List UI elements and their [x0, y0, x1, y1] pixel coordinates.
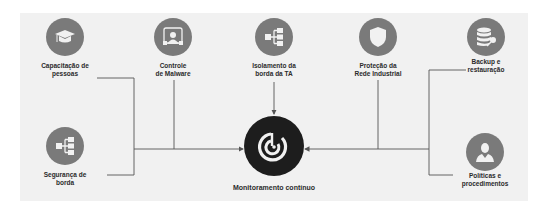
node-seguranca	[46, 127, 84, 165]
node-monitoramento	[244, 116, 304, 176]
label-capacitacao: Capacitação depessoas	[41, 62, 89, 78]
node-capacitacao	[46, 18, 84, 56]
malware-monitor-icon	[160, 24, 186, 50]
label-seguranca: Segurança deborda	[44, 171, 87, 187]
label-isolamento: Isolamento daborda da TA	[252, 62, 296, 78]
graduation-cap-icon	[52, 24, 78, 50]
label-malware: Controlede Malware	[155, 62, 190, 78]
node-backup	[467, 18, 505, 56]
label-monitoramento: Monitoramento contínuo	[233, 184, 315, 192]
node-politicas	[466, 133, 504, 171]
shield-icon	[365, 24, 391, 50]
label-protecao: Proteção daRede Industrial	[355, 62, 402, 78]
label-politicas: Políticas eprocedimentos	[462, 172, 509, 188]
node-isolamento	[255, 18, 293, 56]
database-key-icon	[473, 24, 499, 50]
radar-icon	[254, 126, 294, 166]
person-icon	[472, 139, 498, 165]
label-backup: Backup erestauração	[468, 58, 505, 74]
network-hierarchy-icon	[52, 133, 78, 159]
network-hierarchy-icon	[261, 24, 287, 50]
node-protecao	[359, 18, 397, 56]
node-malware	[154, 18, 192, 56]
